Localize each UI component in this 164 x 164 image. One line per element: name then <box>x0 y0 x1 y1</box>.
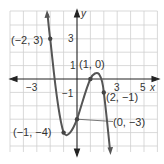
x-axis-left-arrow-icon <box>10 77 17 82</box>
point-neg1-neg4 <box>61 130 65 134</box>
point-label-neg1-neg4: (−1, −4) <box>13 126 52 138</box>
point-neg2-3 <box>48 37 52 41</box>
curve-down-arrow-icon <box>108 147 114 155</box>
point-label-0-neg3: (0, −3) <box>113 116 145 128</box>
y-tick-1: 1 <box>70 60 76 71</box>
x-axis-label: x <box>149 82 156 93</box>
point-label-neg2-3: (−2, 3) <box>11 34 43 46</box>
point-label-1-0: (1, 0) <box>79 58 105 70</box>
point-0-neg3 <box>75 117 79 121</box>
y-tick-3: 3 <box>68 33 74 44</box>
x-tick-5: 5 <box>140 82 146 93</box>
y-axis-down-arrow-icon <box>75 149 80 156</box>
graph-canvas: y x −3 3 5 3 1 −1 (−2, 3) (1, 0) (2, −1)… <box>0 0 164 164</box>
y-axis-label: y <box>80 8 87 19</box>
y-tick-neg1: −1 <box>62 88 74 99</box>
function-curve <box>48 14 111 150</box>
point-label-2-neg1: (2, −1) <box>106 91 138 103</box>
x-tick-neg3: −3 <box>26 82 38 93</box>
point-1-0 <box>88 77 92 81</box>
x-axis-right-arrow-icon <box>152 77 159 82</box>
